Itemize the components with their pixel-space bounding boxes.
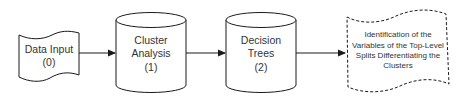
identification-label: Identification of the Variables of the T… [350, 28, 446, 74]
flowchart-diagram: Data Input (0) Cluster Analysis (1) Deci… [0, 0, 471, 101]
identification-line2: Variables of the Top-Level [352, 41, 444, 51]
cluster-analysis-label: Cluster Analysis (1) [116, 32, 186, 76]
identification-line4: Clusters [383, 61, 412, 71]
data-input-title: Data Input [25, 43, 73, 56]
data-input-label: Data Input (0) [19, 40, 79, 72]
data-input-step: (0) [43, 56, 56, 69]
decision-trees-title-line2: Trees [248, 47, 274, 60]
decision-trees-title-line1: Decision [241, 34, 281, 47]
identification-line1: Identification of the [364, 30, 431, 40]
cluster-analysis-title-line1: Cluster [134, 34, 167, 47]
identification-line3: Splits Differentiating the [356, 51, 440, 61]
decision-trees-label: Decision Trees (2) [226, 32, 296, 76]
decision-trees-step: (2) [255, 61, 268, 74]
cluster-analysis-title-line2: Analysis [131, 47, 170, 60]
cluster-analysis-step: (1) [145, 61, 158, 74]
